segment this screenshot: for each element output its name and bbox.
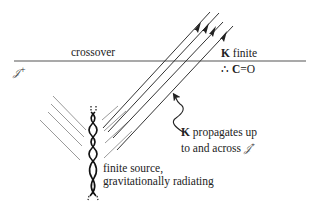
crossover-label: crossover [71,46,115,59]
propagates-line-1: K propagates up [181,126,257,139]
incoming-rays-left [40,96,86,160]
scri-sup: + [251,141,255,149]
source-label: finite source, gravitationally radiating [103,162,214,188]
propagates-line-2: to and across 𝒥+ [181,139,257,155]
k-finite-label: K finite [221,47,257,60]
across-text: to and across [181,142,244,154]
braided-source-icon [89,112,97,196]
therefore-symbol: ∴ [221,63,232,75]
c-value-text: =O [240,63,255,75]
diagram-canvas: 𝒥+ crossover K finite ∴ C=O K propagates… [0,0,312,209]
scri-symbol: 𝒥 [244,143,251,154]
propagates-text: propagates up [190,126,257,138]
scri-plus-label: 𝒥+ [13,64,26,79]
k-symbol: K [181,126,190,138]
scri-symbol: 𝒥 [13,67,20,78]
k-finite-text: finite [230,47,257,59]
incoming-rays-right [102,106,132,158]
scri-sup: + [20,66,26,74]
arrowhead-icons [194,22,227,42]
k-symbol: K [221,47,230,59]
source-line-2: gravitationally radiating [103,175,214,188]
propagates-label: K propagates up to and across 𝒥+ [181,126,257,155]
c-symbol: C [232,63,240,75]
therefore-c-equals-zero: ∴ C=O [221,63,255,76]
source-line-1: finite source, [103,162,214,175]
